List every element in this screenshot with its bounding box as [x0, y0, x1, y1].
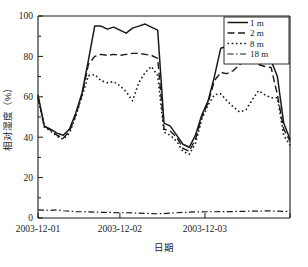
y-tick-label: 20 [24, 173, 34, 183]
legend-label-2-m: 2 m [250, 28, 264, 38]
y-tick-label: 60 [24, 92, 34, 102]
y-tick-label: 40 [24, 133, 34, 143]
y-tick-label: 100 [19, 11, 34, 21]
x-tick-label: 2003-12-02 [98, 224, 143, 234]
humidity-line-chart-figure: 020406080100 2003-12-012003-12-022003-12… [0, 0, 308, 267]
legend-label-18-m: 18 m [250, 49, 268, 59]
chart-legend: 1 m2 m8 m18 m [224, 17, 289, 64]
x-tick-label: 2003-12-01 [16, 224, 61, 234]
y-tick-label: 80 [24, 52, 34, 62]
chart-canvas: 020406080100 2003-12-012003-12-022003-12… [0, 0, 308, 267]
y-axis-title: 相对湿度（%） [2, 83, 13, 151]
x-axis-title: 日期 [154, 242, 174, 253]
legend-label-1-m: 1 m [250, 18, 264, 28]
x-tick-label: 2003-12-03 [183, 224, 228, 234]
legend-label-8-m: 8 m [250, 39, 264, 49]
y-tick-label: 0 [28, 213, 33, 223]
